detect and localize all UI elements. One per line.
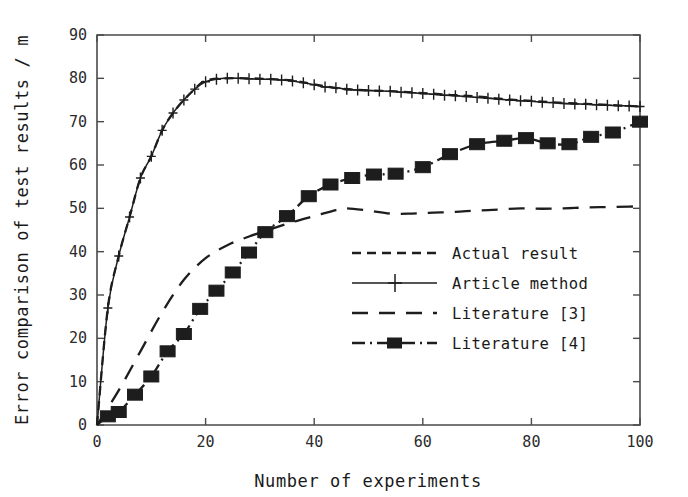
plus-marker bbox=[201, 76, 210, 87]
plus-marker bbox=[125, 212, 134, 223]
plus-marker bbox=[429, 89, 438, 100]
square-marker bbox=[442, 149, 457, 160]
plus-marker bbox=[527, 96, 536, 107]
square-marker bbox=[242, 247, 257, 258]
y-tick-label: 0 bbox=[78, 416, 87, 434]
legend-label: Article method bbox=[452, 275, 588, 293]
square-marker bbox=[633, 116, 648, 127]
square-marker bbox=[388, 168, 403, 179]
square-marker bbox=[584, 131, 599, 142]
y-tick-label: 90 bbox=[69, 26, 87, 44]
plus-marker bbox=[266, 74, 275, 85]
plus-marker bbox=[418, 88, 427, 99]
square-marker bbox=[193, 303, 208, 314]
square-marker bbox=[562, 139, 577, 150]
square-marker bbox=[160, 346, 175, 357]
plus-marker bbox=[451, 90, 460, 101]
square-marker bbox=[176, 329, 191, 340]
plus-marker bbox=[331, 82, 340, 93]
plus-marker bbox=[353, 85, 362, 96]
plus-marker bbox=[223, 73, 232, 84]
plus-marker bbox=[234, 73, 243, 84]
plus-marker bbox=[114, 251, 123, 262]
plus-marker bbox=[570, 98, 579, 109]
plus-marker bbox=[462, 91, 471, 102]
plus-marker bbox=[310, 79, 319, 90]
y-tick-label: 20 bbox=[69, 329, 87, 347]
plus-marker bbox=[581, 99, 590, 110]
plus-marker bbox=[277, 75, 286, 86]
plus-marker bbox=[483, 93, 492, 104]
y-axis-tick-labels: 0102030405060708090 bbox=[69, 26, 87, 434]
square-marker bbox=[280, 211, 295, 222]
square-marker bbox=[345, 173, 360, 184]
x-tick-label: 80 bbox=[522, 433, 540, 451]
series-literature-4 bbox=[97, 116, 648, 425]
x-axis-title: Number of experiments bbox=[254, 471, 482, 491]
square-marker bbox=[366, 169, 381, 180]
plus-marker bbox=[212, 74, 221, 85]
plus-marker bbox=[299, 77, 308, 88]
plus-marker bbox=[559, 98, 568, 109]
y-tick-label: 50 bbox=[69, 199, 87, 217]
y-tick-label: 60 bbox=[69, 156, 87, 174]
y-tick-label: 80 bbox=[69, 69, 87, 87]
plus-marker bbox=[625, 101, 634, 112]
plus-marker bbox=[494, 94, 503, 105]
square-marker bbox=[209, 285, 224, 296]
legend-item-literature-3[interactable]: Literature [3] bbox=[352, 305, 588, 323]
plus-marker bbox=[473, 92, 482, 103]
legend-item-actual-result[interactable]: Actual result bbox=[352, 245, 579, 263]
plus-marker bbox=[136, 173, 145, 184]
plus-marker bbox=[549, 97, 558, 108]
plus-marker bbox=[364, 85, 373, 96]
y-tick-label: 70 bbox=[69, 113, 87, 131]
plus-marker bbox=[592, 99, 601, 110]
legend-label: Literature [4] bbox=[452, 335, 588, 353]
y-tick-label: 10 bbox=[69, 373, 87, 391]
plus-marker bbox=[386, 86, 395, 97]
square-marker bbox=[128, 389, 143, 400]
y-tick-label: 40 bbox=[69, 243, 87, 261]
chart-canvas: 020406080100 0102030405060708090 Actual … bbox=[0, 0, 688, 497]
plus-marker bbox=[538, 97, 547, 108]
plus-marker bbox=[255, 74, 264, 85]
chart-figure: 020406080100 0102030405060708090 Actual … bbox=[0, 0, 688, 497]
y-tick-label: 30 bbox=[69, 286, 87, 304]
x-tick-label: 40 bbox=[305, 433, 323, 451]
plus-marker bbox=[505, 95, 514, 106]
plus-marker bbox=[603, 100, 612, 111]
square-marker bbox=[605, 127, 620, 138]
square-marker bbox=[258, 227, 273, 238]
plus-marker bbox=[288, 75, 297, 86]
plus-marker bbox=[103, 303, 112, 314]
legend-plus-marker bbox=[388, 274, 402, 292]
plus-marker bbox=[636, 101, 645, 112]
legend-label: Actual result bbox=[452, 245, 579, 263]
square-marker bbox=[323, 179, 338, 190]
square-marker bbox=[518, 133, 533, 144]
square-marker bbox=[540, 138, 555, 149]
plus-marker bbox=[440, 90, 449, 101]
plus-marker bbox=[245, 73, 254, 84]
plus-marker bbox=[407, 87, 416, 98]
square-marker bbox=[497, 135, 512, 146]
square-marker bbox=[470, 139, 485, 150]
legend-item-literature-4[interactable]: Literature [4] bbox=[352, 335, 588, 353]
x-tick-label: 20 bbox=[197, 433, 215, 451]
series-line bbox=[97, 122, 640, 425]
plus-marker bbox=[516, 95, 525, 106]
plus-marker bbox=[321, 82, 330, 93]
chart-legend: Actual resultArticle methodLiterature [3… bbox=[352, 245, 588, 353]
y-axis-title: Error comparison of test results / m bbox=[12, 35, 32, 425]
legend-item-article-method[interactable]: Article method bbox=[352, 274, 588, 293]
plus-marker bbox=[375, 85, 384, 96]
plus-marker bbox=[614, 100, 623, 111]
legend-label: Literature [3] bbox=[452, 305, 588, 323]
square-marker bbox=[415, 162, 430, 173]
x-axis-tick-labels: 020406080100 bbox=[92, 433, 653, 451]
plus-marker bbox=[397, 87, 406, 98]
square-marker bbox=[111, 407, 126, 418]
square-marker bbox=[225, 267, 240, 278]
x-tick-label: 60 bbox=[414, 433, 432, 451]
